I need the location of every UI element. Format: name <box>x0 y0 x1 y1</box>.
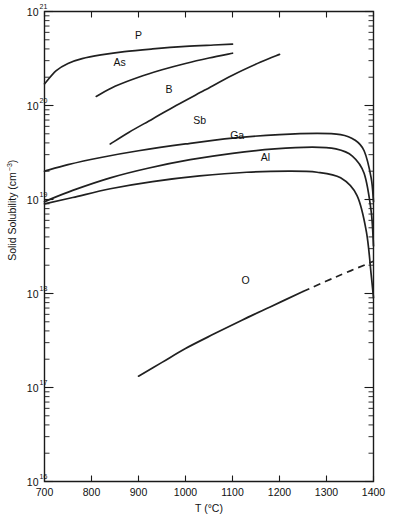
y-tick-exponent-17: 17 <box>40 379 48 386</box>
data-curves <box>45 44 374 376</box>
curve-O-extrapolated <box>303 261 374 291</box>
y-tick-label-1e20: 10 <box>27 100 39 112</box>
y-axis-title: Solid Solubility (cm−3) <box>6 160 18 261</box>
y-tick-exponent-20: 20 <box>40 97 48 104</box>
x-tick-label-800: 800 <box>83 486 101 498</box>
axis-tick-labels: 7008009001000110012001300140010161017101… <box>27 3 386 498</box>
curve-label-B: B <box>166 83 173 95</box>
svg-text:): ) <box>6 160 18 164</box>
curve-label-Ga: Ga <box>230 129 244 141</box>
curve-label-P: P <box>135 29 142 41</box>
x-tick-label-900: 900 <box>130 486 148 498</box>
y-tick-exponent-16: 16 <box>40 473 48 480</box>
curve-O <box>139 292 304 377</box>
svg-text:−3: −3 <box>6 163 13 171</box>
axis-titles: T (°C)Solid Solubility (cm−3) <box>6 160 223 514</box>
x-tick-label-1000: 1000 <box>174 486 198 498</box>
curve-label-As: As <box>114 56 126 68</box>
x-tick-label-1100: 1100 <box>221 486 244 498</box>
y-tick-label-1e19: 10 <box>27 194 39 206</box>
curve-Al <box>45 171 374 298</box>
x-axis-title: T (°C) <box>195 502 223 514</box>
x-tick-label-1200: 1200 <box>268 486 292 498</box>
y-tick-exponent-19: 19 <box>40 191 48 198</box>
plot-frame <box>45 12 374 482</box>
curve-label-O: O <box>242 274 250 286</box>
y-tick-exponent-18: 18 <box>40 285 48 292</box>
solid-solubility-chart: 7008009001000110012001300140010161017101… <box>0 0 395 521</box>
curve-label-Al: Al <box>261 151 270 163</box>
curve-B <box>110 54 279 144</box>
y-tick-label-1e17: 10 <box>27 382 39 394</box>
axes <box>45 12 374 482</box>
y-tick-label-1e18: 10 <box>27 288 39 300</box>
curve-Ga <box>45 147 374 246</box>
svg-text:Solid Solubility (cm: Solid Solubility (cm <box>6 172 18 261</box>
curve-label-Sb: Sb <box>193 114 206 126</box>
y-tick-label-1e16: 10 <box>27 476 39 488</box>
y-tick-exponent-21: 21 <box>40 3 48 10</box>
axis-ticks <box>45 12 374 482</box>
x-tick-label-1300: 1300 <box>315 486 339 498</box>
chart-canvas: 7008009001000110012001300140010161017101… <box>0 0 395 521</box>
y-tick-label-1e21: 10 <box>27 6 39 18</box>
x-tick-label-1400: 1400 <box>362 486 386 498</box>
curve-Sb <box>45 133 374 201</box>
